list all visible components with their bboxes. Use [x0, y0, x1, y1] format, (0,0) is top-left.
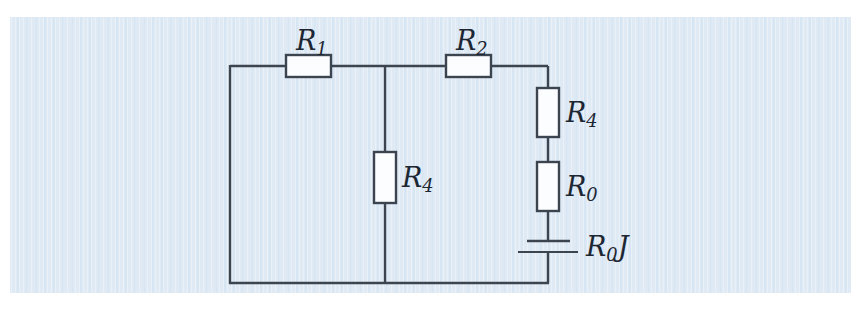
label-r4-right: R4 — [566, 99, 598, 126]
label-r4-right-base: R — [566, 97, 586, 128]
resistor-r4-middle — [374, 152, 396, 203]
label-r0-subscript: 0 — [586, 184, 597, 205]
circuit-diagram — [0, 0, 859, 317]
label-r2: R2 — [456, 27, 488, 54]
label-r4-right-subscript: 4 — [586, 110, 597, 131]
label-source-base: R — [586, 231, 606, 262]
label-r1-subscript: 1 — [316, 38, 327, 59]
label-r2-subscript: 2 — [476, 38, 487, 59]
label-r0-base: R — [566, 171, 586, 202]
label-r0: R0 — [566, 173, 598, 200]
label-r2-base: R — [456, 25, 476, 56]
label-source-subscript: 0 — [606, 244, 617, 265]
label-r4-middle-subscript: 4 — [422, 175, 433, 196]
label-source: R0J — [586, 233, 629, 260]
label-r1-base: R — [296, 25, 316, 56]
label-source-suffix: J — [618, 231, 629, 262]
resistor-r4-right — [537, 88, 559, 137]
label-r1: R1 — [296, 27, 328, 54]
label-r4-middle-base: R — [402, 162, 422, 193]
figure-page: R1 R2 R4 R4 R0 R0J — [0, 0, 859, 317]
label-r4-middle: R4 — [402, 164, 434, 191]
resistor-r0 — [537, 162, 559, 211]
